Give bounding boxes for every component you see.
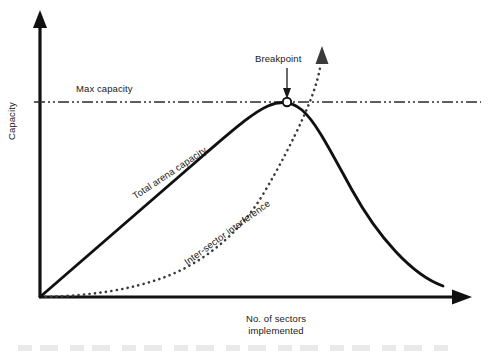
max-capacity-label: Max capacity	[76, 83, 133, 95]
breakpoint-label: Breakpoint	[255, 53, 301, 65]
chart-canvas	[0, 0, 495, 355]
y-axis-label: Capacity	[6, 102, 18, 140]
x-axis-label-line-2: implemented	[248, 325, 304, 336]
x-axis-label: No. of sectors implemented	[216, 313, 336, 337]
y-axis-arrowhead-icon	[33, 10, 47, 28]
x-axis-label-line-1: No. of sectors	[246, 313, 306, 324]
bottom-caption-strip	[18, 345, 448, 351]
capacity-vs-sectors-figure: Capacity No. of sectors implemented Max …	[0, 0, 495, 355]
total-arena-capacity-curve	[40, 103, 443, 297]
breakpoint-marker-icon[interactable]	[283, 98, 291, 106]
x-axis-arrowhead-icon	[452, 290, 472, 305]
inter-sector-interference-arrowhead-icon	[316, 46, 329, 64]
